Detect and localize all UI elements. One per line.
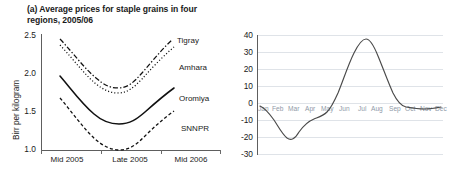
- series-label-amhara: Amhara: [179, 63, 207, 72]
- series-label-tigray: Tigray: [177, 36, 199, 45]
- series-line-price-deviation: [260, 39, 441, 139]
- panel-a-plot-lines: [0, 0, 226, 183]
- panel-a-average-prices: (a) Average prices for staple grains in …: [0, 0, 226, 183]
- series-label-snnpr: SNNPR: [181, 124, 209, 133]
- series-label-oromiya: Oromiya: [179, 94, 209, 103]
- panel-b-plot-line: [226, 0, 452, 183]
- figure-two-panel-charts: (a) Average prices for staple grains in …: [0, 0, 452, 183]
- series-line-oromiya: [60, 76, 174, 124]
- series-line-tigray: [60, 39, 172, 88]
- panel-b-percentage-deviations: (b) Percentage deviations in staple grai…: [226, 0, 452, 183]
- series-line-amhara: [60, 45, 174, 93]
